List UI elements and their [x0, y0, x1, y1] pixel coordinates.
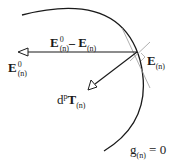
right-angle-marker: [141, 53, 145, 61]
yield-surface-label: g(n) = 0: [130, 143, 166, 160]
difference-vector-label: E0(n)– E(n): [50, 35, 96, 53]
trial-point-label: E(n): [147, 54, 165, 71]
plastic-arrowhead-icon: [88, 80, 97, 90]
plastic-increment-line: [95, 52, 137, 84]
tangent-line: [122, 28, 150, 88]
yield-surface-curve: [22, 8, 143, 151]
elastic-predictor-label: E0(n): [8, 60, 27, 78]
diagram-canvas: E0(n)– E(n) E(n) E0(n) dpT(n) g(n) = 0: [0, 0, 178, 167]
plastic-increment-label: dpT(n): [57, 93, 86, 110]
difference-arrowhead-icon: [18, 48, 28, 56]
